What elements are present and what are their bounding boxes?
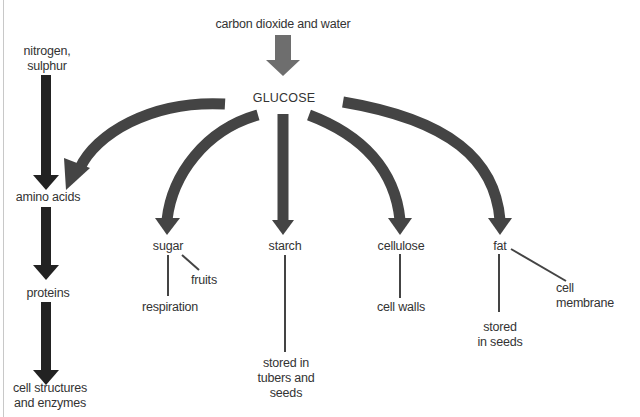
- label-cell-membrane: cell membrane: [556, 281, 614, 311]
- label-line: cell structures: [13, 381, 87, 396]
- label-respiration: respiration: [142, 300, 198, 315]
- label-line: cell: [556, 281, 614, 296]
- label-line: membrane: [556, 296, 614, 311]
- label-line: and enzymes: [13, 396, 87, 411]
- arrow-glucose-to-cellulose: [309, 115, 400, 220]
- arrow-glucose-to-fat: [343, 102, 500, 220]
- label-line: nitrogen,: [24, 44, 71, 59]
- label-fat-stored-in-seeds: stored in seeds: [478, 320, 523, 350]
- label-fat: fat: [493, 239, 506, 254]
- label-starch-storage: stored in tubers and seeds: [257, 356, 314, 401]
- label-line: stored in: [257, 356, 314, 371]
- label-amino-acids: amino acids: [16, 190, 81, 205]
- label-line: seeds: [257, 386, 314, 401]
- diagram-arrows: [0, 0, 640, 417]
- label-cell-structures-enzymes: cell structures and enzymes: [13, 381, 87, 411]
- line-fat-membrane: [511, 249, 566, 281]
- label-fruits: fruits: [191, 273, 217, 288]
- label-line: tubers and: [257, 371, 314, 386]
- label-cellulose: cellulose: [378, 239, 425, 254]
- line-sugar-fruits: [182, 255, 199, 270]
- label-starch: starch: [269, 239, 302, 254]
- nitrogen-chain-arrows: [33, 75, 59, 385]
- label-proteins: proteins: [27, 286, 70, 301]
- label-glucose: GLUCOSE: [253, 91, 316, 106]
- label-cell-walls: cell walls: [377, 300, 425, 315]
- label-nitrogen-sulphur: nitrogen, sulphur: [24, 44, 71, 74]
- label-sugar: sugar: [153, 239, 183, 254]
- label-carbon-dioxide-water: carbon dioxide and water: [216, 17, 351, 32]
- label-line: in seeds: [478, 335, 523, 350]
- arrow-source-to-glucose: [266, 35, 300, 76]
- label-line: sulphur: [24, 59, 71, 74]
- arrow-glucose-to-amino-acids: [80, 104, 225, 168]
- arrow-glucose-to-sugar: [167, 115, 258, 220]
- label-line: stored: [478, 320, 523, 335]
- glucose-arrows: [80, 102, 500, 222]
